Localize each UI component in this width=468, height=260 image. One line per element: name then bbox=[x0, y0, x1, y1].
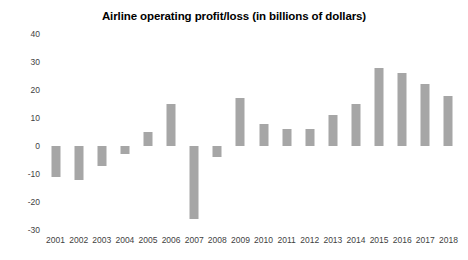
bar[interactable] bbox=[351, 104, 360, 146]
bar-slot bbox=[183, 34, 206, 230]
bar[interactable] bbox=[444, 96, 453, 146]
bar[interactable] bbox=[120, 146, 129, 154]
x-tick-label: 2006 bbox=[160, 236, 183, 254]
y-tick-label: 30 bbox=[0, 58, 40, 67]
x-tick-label: 2015 bbox=[368, 236, 391, 254]
y-tick-label: 20 bbox=[0, 86, 40, 95]
x-tick-label: 2005 bbox=[136, 236, 159, 254]
x-tick-label: 2014 bbox=[344, 236, 367, 254]
x-tick-label: 2009 bbox=[229, 236, 252, 254]
x-tick-label: 2001 bbox=[44, 236, 67, 254]
y-tick-label: 40 bbox=[0, 30, 40, 39]
bar[interactable] bbox=[97, 146, 106, 166]
x-axis: 2001200220032004200520062007200820092010… bbox=[44, 236, 460, 254]
bar-slot bbox=[321, 34, 344, 230]
x-tick-label: 2017 bbox=[414, 236, 437, 254]
bar-slot bbox=[90, 34, 113, 230]
bar-slot bbox=[344, 34, 367, 230]
y-tick-label: 10 bbox=[0, 114, 40, 123]
bar[interactable] bbox=[375, 68, 384, 146]
bar-slot bbox=[275, 34, 298, 230]
bar-slot bbox=[368, 34, 391, 230]
bar[interactable] bbox=[398, 73, 407, 146]
bar-slot bbox=[298, 34, 321, 230]
bar-slot bbox=[437, 34, 460, 230]
bar-slot bbox=[113, 34, 136, 230]
x-tick-label: 2002 bbox=[67, 236, 90, 254]
bar[interactable] bbox=[74, 146, 83, 180]
bar[interactable] bbox=[167, 104, 176, 146]
bar-slot bbox=[414, 34, 437, 230]
x-tick-label: 2011 bbox=[275, 236, 298, 254]
bar[interactable] bbox=[143, 132, 152, 146]
y-tick-label: -20 bbox=[0, 198, 40, 207]
bar[interactable] bbox=[190, 146, 199, 219]
plot-area bbox=[44, 34, 460, 230]
bar[interactable] bbox=[213, 146, 222, 157]
y-axis: 403020100-10-20-30 bbox=[0, 34, 40, 230]
y-tick-label: -30 bbox=[0, 226, 40, 235]
x-tick-label: 2007 bbox=[183, 236, 206, 254]
chart-title: Airline operating profit/loss (in billio… bbox=[0, 10, 468, 22]
bar-slot bbox=[160, 34, 183, 230]
bar[interactable] bbox=[236, 98, 245, 146]
y-tick-label: -10 bbox=[0, 170, 40, 179]
bar-slot bbox=[252, 34, 275, 230]
bars-layer bbox=[44, 34, 460, 230]
bar-slot bbox=[136, 34, 159, 230]
bar[interactable] bbox=[51, 146, 60, 177]
x-tick-label: 2018 bbox=[437, 236, 460, 254]
x-tick-label: 2012 bbox=[298, 236, 321, 254]
bar[interactable] bbox=[259, 124, 268, 146]
x-tick-label: 2016 bbox=[391, 236, 414, 254]
x-tick-label: 2008 bbox=[206, 236, 229, 254]
bar[interactable] bbox=[328, 115, 337, 146]
x-tick-label: 2004 bbox=[113, 236, 136, 254]
bar-slot bbox=[391, 34, 414, 230]
y-tick-label: 0 bbox=[0, 142, 40, 151]
bar[interactable] bbox=[421, 84, 430, 146]
bar[interactable] bbox=[305, 129, 314, 146]
bar-slot bbox=[67, 34, 90, 230]
bar-slot bbox=[206, 34, 229, 230]
bar-chart-figure: Airline operating profit/loss (in billio… bbox=[0, 0, 468, 260]
x-tick-label: 2013 bbox=[321, 236, 344, 254]
x-tick-label: 2010 bbox=[252, 236, 275, 254]
bar[interactable] bbox=[282, 129, 291, 146]
bar-slot bbox=[229, 34, 252, 230]
x-tick-label: 2003 bbox=[90, 236, 113, 254]
bar-slot bbox=[44, 34, 67, 230]
